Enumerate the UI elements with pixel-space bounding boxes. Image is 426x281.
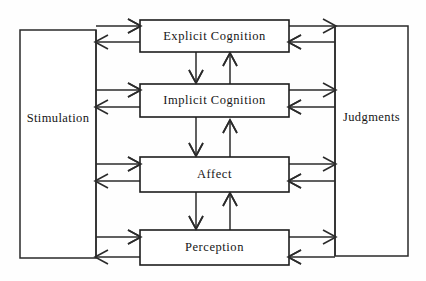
arrow-affect-to-stimulation [95, 174, 140, 188]
arrow-perception-to-judgments [289, 230, 336, 244]
affect-label: Affect [197, 167, 232, 181]
arrow-stimulation-to-explicit-cognition [96, 19, 141, 33]
arrow-affect-to-judgments [289, 157, 336, 171]
node-affect: Affect [140, 157, 289, 192]
arrow-explicit-cognition-to-implicit-cognition [189, 52, 203, 83]
arrow-stimulation-to-perception [96, 230, 141, 244]
arrow-explicit-cognition-to-judgments [289, 19, 336, 33]
arrow-judgments-to-explicit-cognition [288, 35, 335, 49]
arrow-affect-to-implicit-cognition [223, 120, 237, 157]
diagram-svg: Stimulation Judgments [0, 0, 426, 281]
stimulation-label: Stimulation [27, 111, 90, 125]
judgments-label: Judgments [343, 110, 400, 124]
stimulation-box [20, 30, 96, 258]
arrow-perception-to-affect [223, 193, 237, 230]
arrow-stimulation-to-affect [96, 157, 141, 171]
node-perception: Perception [140, 230, 289, 265]
arrow-judgments-to-affect [288, 174, 335, 188]
arrow-perception-to-stimulation [95, 250, 140, 264]
arrow-implicit-cognition-to-judgments [289, 83, 336, 97]
explicit-cognition-label: Explicit Cognition [163, 29, 266, 43]
node-explicit-cognition: Explicit Cognition [140, 20, 289, 52]
arrow-stimulation-to-implicit-cognition [96, 83, 141, 97]
arrow-implicit-cognition-to-affect [189, 117, 203, 156]
judgments-box [335, 26, 408, 256]
node-stimulation: Stimulation [20, 30, 96, 258]
arrow-explicit-cognition-to-stimulation [95, 35, 140, 49]
arrow-judgments-to-implicit-cognition [288, 100, 335, 114]
arrow-implicit-cognition-to-stimulation [95, 100, 140, 114]
implicit-cognition-label: Implicit Cognition [163, 93, 266, 107]
arrow-implicit-cognition-to-explicit-cognition [223, 53, 237, 84]
node-judgments: Judgments [335, 26, 408, 256]
arrow-affect-to-perception [189, 192, 203, 229]
node-implicit-cognition: Implicit Cognition [140, 84, 289, 117]
perception-label: Perception [185, 240, 244, 254]
diagram-canvas: Stimulation Judgments [0, 0, 426, 281]
arrowhead-overlay-layer [128, 19, 301, 264]
arrow-judgments-to-perception [288, 250, 335, 264]
